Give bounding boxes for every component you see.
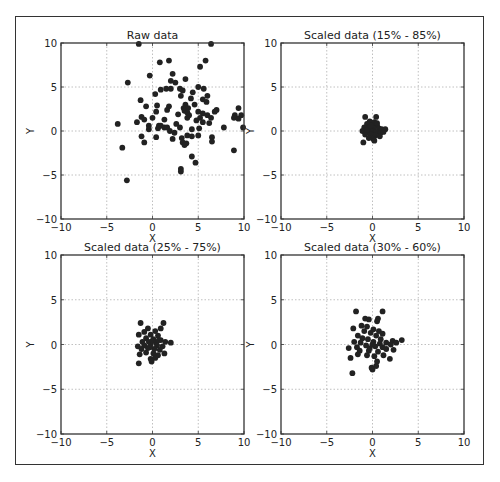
data-point bbox=[212, 109, 218, 115]
data-point bbox=[175, 111, 181, 117]
data-point bbox=[200, 119, 206, 125]
data-point bbox=[149, 359, 155, 365]
data-point bbox=[194, 118, 200, 124]
y-tick-label: 5 bbox=[271, 295, 277, 306]
y-tick-label: 0 bbox=[271, 126, 277, 137]
data-point bbox=[177, 125, 183, 131]
data-point bbox=[348, 355, 354, 361]
x-tick-label: 0 bbox=[369, 437, 375, 448]
data-point bbox=[184, 115, 190, 121]
data-point bbox=[166, 58, 172, 64]
data-point bbox=[161, 320, 167, 326]
data-point bbox=[374, 120, 380, 126]
data-point bbox=[368, 330, 374, 336]
data-point bbox=[371, 353, 377, 359]
x-tick-label: 0 bbox=[369, 222, 375, 233]
x-tick-label: −5 bbox=[319, 222, 334, 233]
data-point bbox=[138, 97, 144, 103]
data-point bbox=[236, 116, 242, 122]
data-point bbox=[349, 370, 355, 376]
subplot-25-75: −10−50510−10−50510XYScaled data (25% - 7… bbox=[25, 241, 250, 459]
y-tick-label: 5 bbox=[51, 82, 57, 93]
data-point bbox=[190, 89, 196, 95]
y-axis-label: Y bbox=[245, 341, 256, 349]
data-point bbox=[381, 352, 387, 358]
data-point bbox=[153, 134, 159, 140]
data-point bbox=[170, 136, 176, 142]
x-tick-label: 0 bbox=[149, 222, 155, 233]
data-point bbox=[380, 308, 386, 314]
x-tick-label: 5 bbox=[415, 437, 421, 448]
data-point bbox=[383, 346, 389, 352]
data-point bbox=[141, 329, 147, 335]
data-point bbox=[204, 99, 210, 105]
data-point bbox=[139, 133, 145, 139]
data-point bbox=[346, 345, 352, 351]
data-point bbox=[150, 338, 156, 344]
data-point bbox=[188, 96, 194, 102]
data-point bbox=[362, 114, 368, 120]
x-tick-label: 5 bbox=[195, 437, 201, 448]
data-point bbox=[209, 139, 215, 145]
data-point bbox=[399, 337, 405, 343]
data-point bbox=[178, 169, 184, 175]
data-point bbox=[203, 58, 209, 64]
data-point bbox=[158, 87, 164, 93]
subplots-grid: −10−50510−10−50510XYRaw data−10−50510−10… bbox=[0, 0, 500, 482]
subplot-raw: −10−50510−10−50510XYRaw data bbox=[25, 29, 250, 244]
data-point bbox=[157, 347, 163, 353]
data-point bbox=[197, 64, 203, 70]
data-point bbox=[361, 328, 367, 334]
x-tick-label: 10 bbox=[238, 437, 251, 448]
data-point bbox=[377, 341, 383, 347]
data-point bbox=[170, 71, 176, 77]
data-point bbox=[172, 80, 178, 86]
data-point bbox=[161, 117, 167, 123]
data-point bbox=[374, 318, 380, 324]
data-point bbox=[125, 80, 131, 86]
data-point bbox=[152, 91, 158, 97]
x-tick-label: −5 bbox=[99, 222, 114, 233]
y-tick-label: −5 bbox=[262, 170, 277, 181]
data-point bbox=[201, 86, 207, 92]
subplot-title: Scaled data (30% - 60%) bbox=[304, 241, 441, 254]
data-point bbox=[178, 93, 184, 99]
data-point bbox=[147, 73, 153, 79]
subplot-30-60: −10−50510−10−50510XYScaled data (30% - 6… bbox=[245, 241, 470, 459]
data-point bbox=[195, 133, 201, 139]
data-point bbox=[119, 145, 125, 151]
x-tick-label: 0 bbox=[149, 437, 155, 448]
y-tick-label: −10 bbox=[256, 214, 277, 225]
data-point bbox=[168, 86, 174, 92]
data-point bbox=[180, 88, 186, 94]
figure: −10−50510−10−50510XYRaw data−10−50510−10… bbox=[0, 0, 500, 482]
data-point bbox=[155, 125, 161, 131]
data-point bbox=[154, 103, 160, 109]
y-tick-label: 5 bbox=[51, 295, 57, 306]
data-point bbox=[236, 105, 242, 111]
data-point bbox=[143, 103, 149, 109]
y-axis-label: Y bbox=[25, 127, 36, 135]
y-tick-label: −5 bbox=[42, 170, 57, 181]
data-point bbox=[208, 115, 214, 121]
data-point bbox=[231, 147, 237, 153]
x-tick-label: 10 bbox=[238, 222, 251, 233]
data-point bbox=[381, 129, 387, 135]
data-point bbox=[208, 41, 214, 47]
data-point bbox=[391, 347, 397, 353]
data-point bbox=[147, 344, 153, 350]
data-point bbox=[153, 109, 159, 115]
data-point bbox=[368, 123, 374, 129]
y-tick-label: 5 bbox=[271, 82, 277, 93]
data-point bbox=[141, 117, 147, 123]
x-tick-label: −5 bbox=[99, 437, 114, 448]
data-point bbox=[373, 114, 379, 120]
subplot-15-85: −10−50510−10−50510XYScaled data (15% - 8… bbox=[245, 29, 470, 244]
data-point bbox=[196, 125, 202, 131]
y-tick-label: 0 bbox=[271, 340, 277, 351]
y-tick-label: −10 bbox=[36, 214, 57, 225]
data-point bbox=[360, 140, 366, 146]
data-point bbox=[134, 119, 140, 125]
y-tick-label: −10 bbox=[256, 429, 277, 440]
data-point bbox=[388, 342, 394, 348]
